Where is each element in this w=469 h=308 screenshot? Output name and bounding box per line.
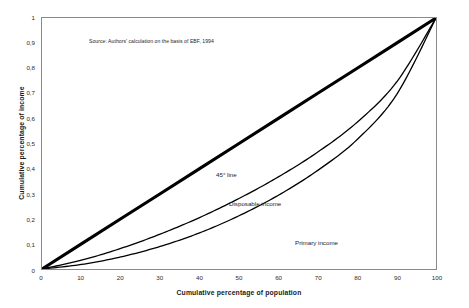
x-tick-label: 80 [343, 274, 373, 281]
annotation-disposable-income: Disposable income [229, 200, 281, 208]
x-axis-title: Cumulative percentage of population [41, 289, 437, 296]
annotation-45-degree-line: 45° line [216, 171, 237, 179]
plot-area: Source: Authors' calculation on the basi… [41, 17, 437, 270]
x-tick-label: 20 [105, 274, 135, 281]
x-tick-label: 30 [145, 274, 175, 281]
x-tick-label: 40 [184, 274, 214, 281]
x-tick-label: 50 [224, 274, 254, 281]
x-tick-label: 0 [26, 274, 56, 281]
y-axis-title-wrapper: Cumulative percentage of income [10, 17, 22, 270]
lorenz-curve-figure: Source: Authors' calculation on the basi… [0, 0, 469, 308]
chart-canvas [42, 18, 436, 269]
x-tick-label: 100 [422, 274, 452, 281]
x-tick-label: 70 [303, 274, 333, 281]
x-tick-label: 90 [382, 274, 412, 281]
annotation-primary-income: Primary income [295, 239, 338, 247]
x-tick-label: 10 [66, 274, 96, 281]
y-axis-title: Cumulative percentage of income [18, 86, 25, 199]
series-45-degree-line [42, 18, 436, 269]
x-tick-label: 60 [264, 274, 294, 281]
source-note: Source: Authors' calculation on the basi… [89, 38, 214, 45]
